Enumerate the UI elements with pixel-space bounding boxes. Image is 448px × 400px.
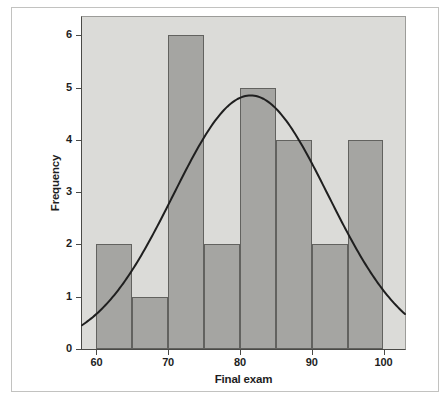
page-background: 012345660708090100 Frequency Final exam [0,0,448,400]
y-tick-mark-3 [76,192,81,193]
y-tick-mark-5 [76,88,81,89]
y-tick-label-2: 2 [42,237,72,249]
x-tick-mark-60 [96,350,97,355]
x-tick-label-70: 70 [148,356,188,368]
y-axis-title: Frequency [49,155,61,211]
y-tick-label-5: 5 [42,81,72,93]
y-tick-mark-0 [76,349,81,350]
x-tick-mark-90 [312,350,313,355]
x-tick-mark-100 [384,350,385,355]
y-tick-label-6: 6 [42,28,72,40]
figure-frame: 012345660708090100 Frequency Final exam [11,7,439,392]
y-tick-mark-4 [76,140,81,141]
x-tick-label-100: 100 [364,356,404,368]
y-tick-label-0: 0 [42,342,72,354]
axis-ticks-layer: 012345660708090100 [82,17,405,349]
y-tick-label-4: 4 [42,133,72,145]
y-tick-mark-6 [76,35,81,36]
y-tick-label-1: 1 [42,290,72,302]
y-tick-mark-2 [76,244,81,245]
x-axis-title: Final exam [82,373,405,385]
x-tick-label-60: 60 [76,356,116,368]
x-tick-mark-70 [168,350,169,355]
x-tick-mark-80 [240,350,241,355]
plot-area: 012345660708090100 Frequency Final exam [81,16,406,350]
x-tick-label-80: 80 [220,356,260,368]
y-tick-mark-1 [76,297,81,298]
x-tick-label-90: 90 [292,356,332,368]
